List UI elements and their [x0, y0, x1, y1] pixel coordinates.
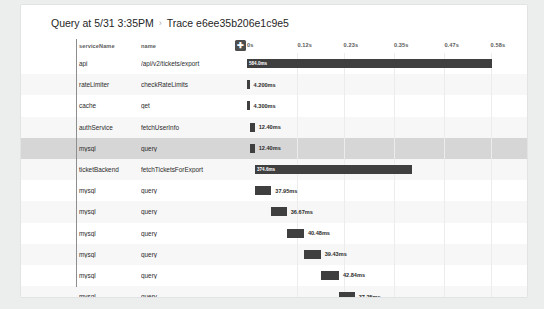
span-service-cell: mysql: [21, 272, 141, 279]
timeline-gridline: [394, 95, 395, 116]
timeline-gridline: [444, 180, 445, 201]
span-rows: api/api/v2/tickets/export584.0msrateLimi…: [21, 53, 527, 298]
span-duration-label: 37.25ms: [359, 293, 381, 298]
span-operation-label: query: [141, 187, 233, 194]
table-row[interactable]: ⌃authServicefetchUserInfo12.40ms: [21, 117, 527, 138]
timeline-gridline: [444, 286, 445, 298]
table-row[interactable]: mysqlquery12.40ms: [21, 138, 527, 159]
timeline-axis: ✚ 0s0.12s0.23s0.35s0.47s0.58s: [233, 39, 527, 53]
span-duration-label: 42.84ms: [343, 271, 365, 279]
timeline-gridline: [297, 286, 298, 298]
axis-tick-label: 0.47s: [444, 42, 459, 48]
span-duration-bar[interactable]: 374.6ms: [255, 165, 412, 174]
span-service-label: mysql: [79, 272, 96, 279]
table-row[interactable]: rateLimitercheckRateLimits4.200ms: [21, 74, 527, 95]
table-row[interactable]: mysqlquery36.67ms: [21, 201, 527, 222]
span-service-cell: mysql: [21, 187, 141, 194]
span-duration-label: 36.67ms: [291, 208, 313, 216]
span-service-cell: mysql: [21, 251, 141, 258]
timeline-gridline: [394, 265, 395, 286]
timeline-gridline: [297, 117, 298, 138]
span-duration-label: 4.300ms: [254, 102, 276, 110]
span-operation-label: query: [141, 251, 233, 258]
timeline-gridline: [444, 74, 445, 95]
span-duration-label: 39.43ms: [325, 250, 347, 258]
timeline-gridline: [394, 74, 395, 95]
table-row[interactable]: mysqlquery37.25ms: [21, 286, 527, 298]
span-duration-bar[interactable]: [304, 250, 321, 259]
span-timeline-cell[interactable]: 37.95ms: [233, 180, 527, 201]
timeline-gridline: [491, 265, 492, 286]
span-service-label: mysql: [79, 145, 96, 152]
span-duration-bar[interactable]: [271, 207, 286, 216]
table-row[interactable]: api/api/v2/tickets/export584.0ms: [21, 53, 527, 74]
span-duration-bar[interactable]: [250, 123, 255, 132]
table-row[interactable]: cacheget4.300ms: [21, 95, 527, 116]
span-duration-bar[interactable]: [339, 292, 355, 298]
span-timeline-cell[interactable]: 12.40ms: [233, 138, 527, 159]
span-timeline-cell[interactable]: 12.40ms: [233, 117, 527, 138]
span-service-label: authService: [79, 124, 113, 131]
span-service-label: cache: [79, 102, 96, 109]
timeline-gridline: [344, 95, 345, 116]
span-duration-bar[interactable]: [255, 186, 271, 195]
span-duration-bar[interactable]: [247, 80, 249, 89]
timeline-gridline: [344, 117, 345, 138]
breadcrumb-parent-link[interactable]: Query at 5/31 3:35PM: [51, 17, 154, 29]
span-timeline-cell[interactable]: 42.84ms: [233, 265, 527, 286]
table-row[interactable]: mysqlquery42.84ms: [21, 265, 527, 286]
table-row[interactable]: mysqlquery40.48ms: [21, 223, 527, 244]
expand-all-button[interactable]: ✚: [235, 40, 246, 51]
span-duration-bar[interactable]: [287, 229, 304, 238]
span-timeline-cell[interactable]: 4.200ms: [233, 74, 527, 95]
span-timeline-cell[interactable]: 584.0ms: [233, 53, 527, 74]
timeline-gridline: [491, 244, 492, 265]
span-timeline-cell[interactable]: 40.48ms: [233, 223, 527, 244]
timeline-gridline: [297, 95, 298, 116]
trace-span-table: serviceName name ✚ 0s0.12s0.23s0.35s0.47…: [21, 39, 527, 298]
timeline-gridline: [297, 180, 298, 201]
span-duration-bar[interactable]: [247, 101, 249, 110]
timeline-gridline: [444, 265, 445, 286]
timeline-gridline: [491, 159, 492, 180]
column-header-name[interactable]: name: [141, 43, 233, 49]
table-row[interactable]: ticketBackendfetchTicketsForExport374.6m…: [21, 159, 527, 180]
span-duration-label: 584.0ms: [249, 59, 267, 68]
span-duration-bar[interactable]: 584.0ms: [247, 59, 492, 68]
span-timeline-cell[interactable]: 374.6ms: [233, 159, 527, 180]
column-header-service[interactable]: serviceName: [21, 43, 141, 49]
span-timeline-cell[interactable]: 36.67ms: [233, 201, 527, 222]
span-timeline-cell[interactable]: 39.43ms: [233, 244, 527, 265]
timeline-gridline: [394, 180, 395, 201]
span-duration-label: 374.6ms: [257, 165, 275, 174]
timeline-gridline: [491, 223, 492, 244]
axis-tick-label: 0.23s: [344, 42, 359, 48]
timeline-gridline: [297, 74, 298, 95]
span-service-label: mysql: [79, 230, 96, 237]
timeline-gridline: [344, 180, 345, 201]
axis-tick-label: 0.35s: [394, 42, 409, 48]
span-timeline-cell[interactable]: 37.25ms: [233, 286, 527, 298]
span-operation-label: fetchTicketsForExport: [141, 166, 233, 173]
span-duration-bar[interactable]: [250, 144, 255, 153]
table-row[interactable]: mysqlquery39.43ms: [21, 244, 527, 265]
table-header-row: serviceName name ✚ 0s0.12s0.23s0.35s0.47…: [21, 39, 527, 53]
timeline-gridline: [394, 223, 395, 244]
span-operation-label: fetchUserInfo: [141, 124, 233, 131]
span-service-cell: api: [21, 60, 141, 67]
table-row[interactable]: mysqlquery37.95ms: [21, 180, 527, 201]
breadcrumb-separator-icon: ›: [159, 18, 162, 28]
timeline-gridline: [394, 201, 395, 222]
span-timeline-cell[interactable]: 4.300ms: [233, 95, 527, 116]
span-duration-label: 12.40ms: [259, 123, 281, 131]
timeline-gridline: [344, 223, 345, 244]
span-service-cell: ⌃authService: [21, 124, 141, 131]
span-service-cell: mysql: [21, 230, 141, 237]
span-duration-label: 4.200ms: [254, 81, 276, 89]
span-duration-label: 37.95ms: [275, 187, 297, 195]
timeline-gridline: [444, 159, 445, 180]
span-duration-bar[interactable]: [321, 271, 339, 280]
span-service-cell: mysql: [21, 145, 141, 152]
span-operation-label: query: [141, 145, 233, 152]
timeline-gridline: [491, 138, 492, 159]
